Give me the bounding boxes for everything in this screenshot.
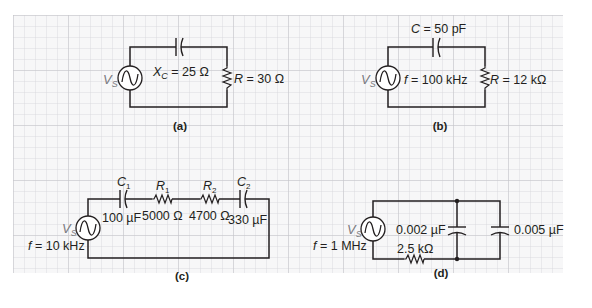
r1-value: 5000 Ω xyxy=(142,209,183,223)
frequency-label: f = 1 MHz xyxy=(313,239,367,253)
junction-dot xyxy=(455,199,459,203)
caption-c: (c) xyxy=(175,270,189,282)
ac-source-icon xyxy=(361,217,385,241)
capacitor-1-label: 0.002 µF xyxy=(396,223,446,237)
resistor-label: R = 30 Ω xyxy=(234,72,284,86)
ac-source-icon xyxy=(118,66,142,90)
r2-value: 4700 Ω xyxy=(189,209,230,223)
capacitor-2-label: 0.005 µF xyxy=(514,223,564,237)
caption-b: (b) xyxy=(433,120,448,132)
capacitor-label: C = 50 pF xyxy=(411,22,467,36)
resistor-label: 2.5 kΩ xyxy=(397,242,433,256)
junction-dot xyxy=(455,257,459,261)
caption-a: (a) xyxy=(173,120,187,132)
frequency-label: f = 10 kHz xyxy=(28,239,85,253)
caption-d: (d) xyxy=(434,267,449,279)
c2-value: 330 µF xyxy=(228,213,268,227)
ac-source-icon xyxy=(76,216,100,240)
c1-value: 100 µF xyxy=(102,211,142,225)
frequency-label: f = 100 kHz xyxy=(404,73,468,87)
circuit-figure: VS XC = 25 Ω R = 30 Ω (a) VS f = 100 kHz… xyxy=(0,0,592,308)
capacitor-label: XC = 25 Ω xyxy=(152,65,209,81)
ac-source-icon xyxy=(376,66,400,90)
resistor-label: R = 12 kΩ xyxy=(490,73,546,87)
